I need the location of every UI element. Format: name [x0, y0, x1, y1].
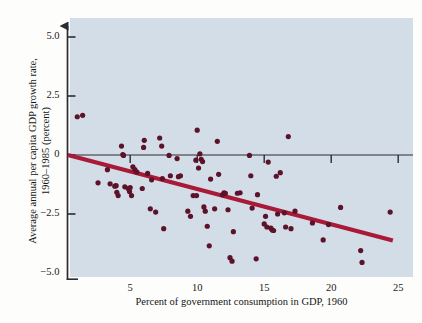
data-point	[175, 156, 180, 161]
data-point	[388, 210, 393, 215]
data-point	[145, 171, 150, 176]
x-tick-label: 25	[383, 282, 413, 293]
data-point	[278, 170, 283, 175]
data-point	[266, 159, 271, 164]
data-point	[128, 185, 133, 190]
regression-trendline	[68, 155, 393, 240]
data-point	[358, 248, 363, 253]
data-point	[108, 181, 113, 186]
axes-layer	[67, 26, 413, 280]
data-point	[80, 113, 85, 118]
data-point	[134, 169, 139, 174]
data-point	[237, 190, 242, 195]
data-point	[288, 226, 293, 231]
data-point	[223, 191, 228, 196]
trendline-layer	[68, 155, 393, 240]
plot-canvas	[0, 0, 422, 323]
data-point	[215, 139, 220, 144]
y-axis-title-line1: Average annual per capita GDP growth rat…	[27, 58, 38, 244]
data-points-layer	[75, 113, 393, 265]
x-tick-label: 10	[182, 282, 212, 293]
data-point	[121, 153, 126, 158]
data-point	[274, 174, 279, 179]
data-point	[247, 153, 252, 158]
data-point	[321, 237, 326, 242]
data-point	[157, 135, 162, 140]
data-point	[338, 205, 343, 210]
data-point	[95, 180, 100, 185]
data-point	[194, 193, 199, 198]
data-point	[229, 259, 234, 264]
data-point	[129, 193, 134, 198]
data-point	[207, 243, 212, 248]
data-point	[197, 151, 202, 156]
data-point	[168, 173, 173, 178]
data-point	[208, 176, 213, 181]
data-point	[142, 138, 147, 143]
data-point	[160, 176, 165, 181]
data-point	[283, 224, 288, 229]
data-point	[185, 209, 190, 214]
data-point	[248, 173, 253, 178]
y-axis-title: Average annual per capita GDP growth rat…	[26, 23, 52, 279]
data-point	[231, 229, 236, 234]
data-point	[75, 114, 80, 119]
data-point	[205, 224, 210, 229]
data-point	[141, 145, 146, 150]
data-point	[275, 211, 280, 216]
data-point	[116, 193, 121, 198]
data-point	[161, 226, 166, 231]
data-point	[196, 165, 201, 170]
data-point	[216, 172, 221, 177]
data-point	[200, 159, 205, 164]
scatter-plot-figure: 5.02.50−2.5−5.0 510152025 Average annual…	[0, 0, 422, 323]
data-point	[326, 222, 331, 227]
x-tick-label: 15	[249, 282, 279, 293]
data-point	[105, 167, 110, 172]
data-point	[195, 128, 200, 133]
x-axis-title: Percent of government consumption in GDP…	[70, 296, 413, 307]
data-point	[282, 210, 287, 215]
data-point	[292, 209, 297, 214]
x-tick-label: 20	[316, 282, 346, 293]
data-point	[188, 214, 193, 219]
data-point	[286, 134, 291, 139]
data-point	[225, 207, 230, 212]
data-point	[178, 173, 183, 178]
x-tick-label: 5	[115, 282, 145, 293]
y-axis-title-line2: 1960–1985 (percent)	[39, 23, 52, 279]
data-point	[359, 260, 364, 265]
data-point	[148, 206, 153, 211]
data-point	[271, 228, 276, 233]
data-point	[203, 209, 208, 214]
data-point	[140, 186, 145, 191]
data-point	[119, 143, 124, 148]
data-point	[149, 177, 154, 182]
data-point	[263, 214, 268, 219]
data-point	[254, 256, 259, 261]
data-point	[153, 210, 158, 215]
data-point	[250, 206, 255, 211]
data-point	[310, 220, 315, 225]
data-point	[212, 206, 217, 211]
data-point	[255, 192, 260, 197]
data-point	[159, 143, 164, 148]
data-point	[166, 153, 171, 158]
data-point	[114, 183, 119, 188]
data-point	[193, 158, 198, 163]
